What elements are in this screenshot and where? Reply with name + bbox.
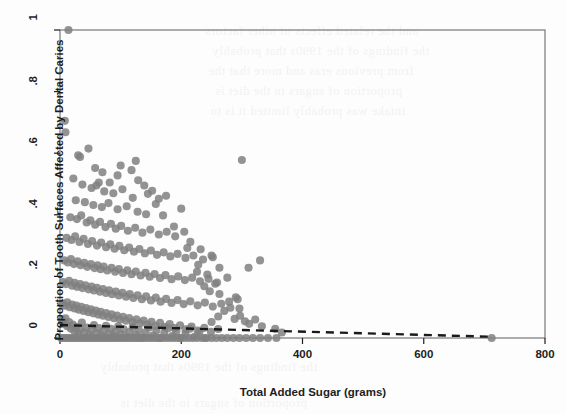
data-point: [206, 287, 214, 295]
data-point: [95, 178, 103, 186]
data-point: [114, 205, 122, 213]
data-point: [109, 189, 117, 197]
data-point: [155, 195, 163, 203]
data-point: [197, 245, 205, 253]
y-tick-label: .2: [27, 260, 39, 290]
data-point: [81, 198, 89, 206]
y-tick-label: .4: [27, 199, 39, 229]
data-point: [264, 334, 272, 342]
data-point: [203, 271, 211, 279]
data-point: [142, 210, 150, 218]
data-point: [148, 187, 156, 195]
data-point: [251, 315, 259, 323]
data-point: [244, 264, 252, 272]
data-point: [208, 251, 216, 259]
data-point: [159, 211, 167, 219]
data-point: [258, 322, 266, 330]
x-axis-title: Total Added Sugar (grams): [0, 386, 566, 398]
data-point: [249, 334, 257, 342]
y-tick-label: 0: [27, 322, 39, 352]
data-point: [193, 268, 201, 276]
data-point: [132, 157, 140, 165]
data-point: [104, 199, 112, 207]
data-point: [166, 252, 174, 260]
data-point: [134, 208, 142, 216]
data-point: [211, 280, 219, 288]
data-point: [181, 254, 189, 262]
y-tick-label: 1: [27, 14, 39, 44]
data-point: [209, 303, 217, 311]
data-point: [171, 232, 179, 240]
data-point: [89, 201, 97, 209]
data-point: [129, 194, 137, 202]
data-point: [98, 168, 106, 176]
data-point: [488, 334, 496, 342]
data-point: [215, 290, 223, 298]
data-point: [234, 295, 242, 303]
data-point: [256, 256, 264, 264]
data-point: [180, 228, 188, 236]
data-point: [208, 318, 216, 326]
data-point: [78, 181, 86, 189]
data-point: [117, 222, 125, 230]
x-tick-label: 0: [40, 348, 80, 360]
data-point: [64, 26, 72, 34]
data-point: [278, 328, 286, 336]
data-point: [189, 251, 197, 259]
data-point: [72, 196, 80, 204]
data-point: [170, 222, 178, 230]
data-point: [223, 274, 231, 282]
data-point: [124, 227, 132, 235]
y-axis-title: Proportion of Tooth Surfaces Affected by…: [53, 25, 65, 355]
data-point: [155, 230, 163, 238]
data-point: [106, 178, 114, 186]
data-point: [186, 297, 194, 305]
data-point: [194, 261, 202, 269]
data-point: [117, 161, 125, 169]
data-point: [214, 312, 222, 320]
data-point: [201, 299, 209, 307]
data-point: [100, 187, 108, 195]
data-point: [236, 312, 244, 320]
data-point: [146, 226, 154, 234]
data-point: [186, 238, 194, 246]
x-tick-label: 800: [525, 348, 565, 360]
data-point: [256, 334, 264, 342]
y-tick-label: .8: [27, 76, 39, 106]
data-point: [131, 224, 139, 232]
data-point: [123, 202, 131, 210]
data-point: [77, 211, 85, 219]
y-tick-label: .6: [27, 137, 39, 167]
data-point: [181, 276, 189, 284]
x-tick-label: 600: [404, 348, 444, 360]
data-point: [235, 304, 243, 312]
data-point: [220, 307, 228, 315]
x-tick-label: 200: [161, 348, 201, 360]
x-tick-label: 400: [283, 348, 323, 360]
data-point: [76, 153, 84, 161]
data-point: [163, 228, 171, 236]
data-point: [84, 145, 92, 153]
data-point: [69, 174, 77, 182]
scatter-plot-figure: and the related effects of other factors…: [0, 0, 566, 414]
data-point: [194, 301, 202, 309]
data-point: [177, 205, 185, 213]
data-point: [225, 298, 233, 306]
data-point: [118, 185, 126, 193]
data-point: [238, 156, 246, 164]
data-point: [162, 192, 170, 200]
data-point: [91, 164, 99, 172]
data-point: [114, 171, 122, 179]
data-point: [215, 264, 223, 272]
data-point: [140, 181, 148, 189]
data-point: [127, 166, 135, 174]
data-point: [174, 250, 182, 258]
data-point: [138, 229, 146, 237]
data-point: [217, 300, 225, 308]
